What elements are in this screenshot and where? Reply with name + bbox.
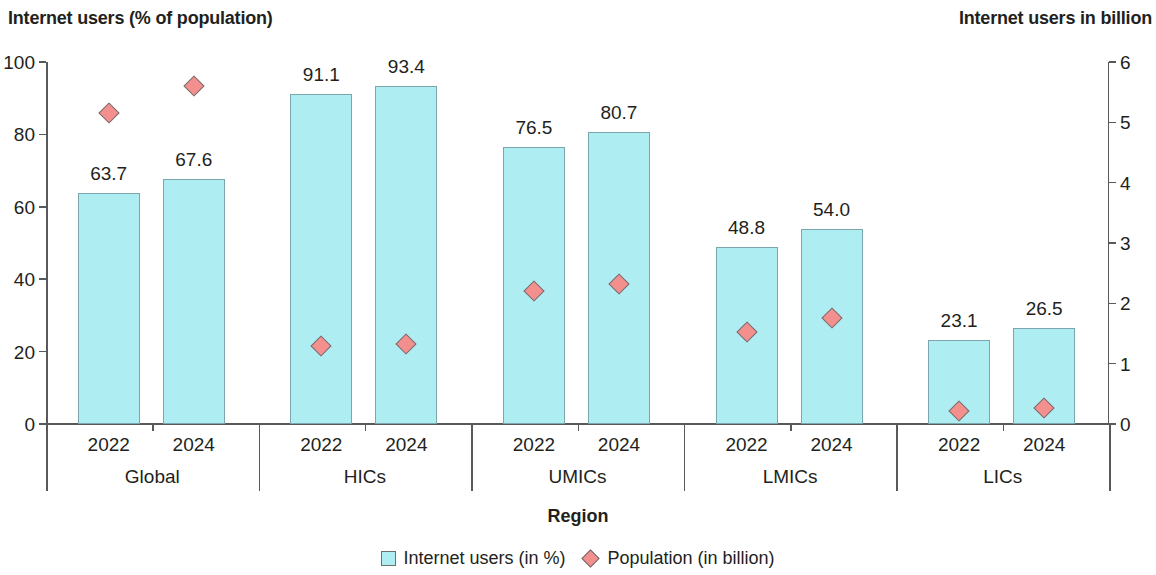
legend-item: Population (in billion)	[581, 548, 774, 569]
group-separator	[896, 424, 898, 491]
bar-value-label: 91.1	[303, 64, 340, 86]
group-separator	[259, 424, 261, 491]
legend-diamond-icon	[582, 549, 600, 567]
right-axis-tick-label: 5	[1120, 113, 1131, 132]
x-axis-group-label: LICs	[983, 466, 1022, 488]
population-marker	[98, 103, 119, 124]
group-separator	[1109, 424, 1111, 491]
x-axis-group-label: Global	[125, 466, 180, 488]
chart-legend: Internet users (in %)Population (in bill…	[0, 548, 1156, 569]
x-axis-category-label: 2024	[810, 434, 852, 456]
left-axis-tick-label: 0	[24, 415, 35, 434]
bar	[375, 86, 437, 424]
x-axis-tick	[365, 424, 367, 431]
left-axis-tick	[39, 134, 46, 136]
right-axis-tick	[1109, 182, 1116, 184]
bar	[78, 193, 140, 424]
left-axis-tick	[39, 278, 46, 280]
left-axis-tick	[39, 61, 46, 63]
legend-item: Internet users (in %)	[381, 548, 565, 569]
x-axis-category-label: 2024	[173, 434, 215, 456]
x-axis-tick	[152, 424, 154, 431]
legend-label: Internet users (in %)	[403, 548, 565, 569]
x-axis-tick	[790, 424, 792, 431]
right-axis-tick-label: 6	[1120, 53, 1131, 72]
x-axis-tick	[1003, 424, 1005, 431]
left-axis-title: Internet users (% of population)	[8, 8, 273, 29]
plot-area: 020406080100 0123456 63.767.691.193.476.…	[46, 62, 1109, 424]
x-axis-tick	[578, 424, 580, 431]
left-axis-tick-label: 100	[3, 53, 35, 72]
left-axis-tick-label: 80	[14, 125, 35, 144]
bar-value-label: 26.5	[1026, 298, 1063, 320]
x-axis-category-label: 2022	[300, 434, 342, 456]
bar	[163, 179, 225, 424]
x-axis-category-label: 2024	[598, 434, 640, 456]
left-axis-tick-label: 20	[14, 342, 35, 361]
x-axis-category-label: 2022	[513, 434, 555, 456]
bar-value-label: 54.0	[813, 199, 850, 221]
group-separator	[46, 424, 48, 491]
right-axis-tick-label: 0	[1120, 415, 1131, 434]
legend-label: Population (in billion)	[607, 548, 774, 569]
bar-value-label: 63.7	[90, 163, 127, 185]
chart-page: Internet users (% of population) Interne…	[0, 0, 1156, 575]
right-axis-tick-label: 2	[1120, 294, 1131, 313]
x-axis-group-label: UMICs	[548, 466, 606, 488]
bar-value-label: 93.4	[388, 56, 425, 78]
left-axis-tick	[39, 206, 46, 208]
group-separator	[684, 424, 686, 491]
bar-value-label: 67.6	[175, 149, 212, 171]
bar	[290, 94, 352, 424]
right-axis-tick	[1109, 61, 1116, 63]
bar-value-label: 48.8	[728, 217, 765, 239]
right-axis-tick	[1109, 363, 1116, 365]
x-axis-group-label: LMICs	[763, 466, 818, 488]
x-axis-category-label: 2022	[938, 434, 980, 456]
bar-value-label: 76.5	[515, 117, 552, 139]
right-axis-tick-label: 1	[1120, 354, 1131, 373]
group-separator	[471, 424, 473, 491]
left-axis-line	[46, 62, 48, 424]
left-axis-tick-label: 40	[14, 270, 35, 289]
left-axis-tick	[39, 423, 46, 425]
right-axis-tick	[1109, 242, 1116, 244]
left-axis-tick	[39, 351, 46, 353]
right-axis-title: Internet users in billion	[959, 8, 1152, 29]
bar-value-label: 80.7	[600, 102, 637, 124]
population-marker	[183, 76, 204, 97]
x-axis-category-label: 2022	[725, 434, 767, 456]
bar-value-label: 23.1	[941, 310, 978, 332]
right-axis-tick	[1109, 303, 1116, 305]
x-axis-category-label: 2024	[1023, 434, 1065, 456]
x-axis-category-label: 2024	[385, 434, 427, 456]
left-axis-tick-label: 60	[14, 197, 35, 216]
x-axis-group-label: HICs	[344, 466, 386, 488]
x-axis-title: Region	[0, 506, 1156, 527]
legend-square-icon	[381, 551, 396, 566]
right-axis-tick-label: 4	[1120, 173, 1131, 192]
x-axis-category-label: 2022	[88, 434, 130, 456]
right-axis-tick	[1109, 122, 1116, 124]
right-axis-tick-label: 3	[1120, 234, 1131, 253]
